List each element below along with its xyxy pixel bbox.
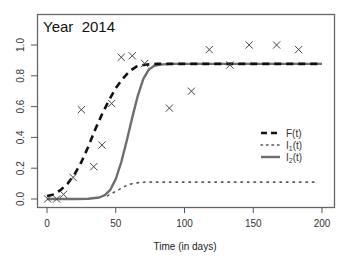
series-curves bbox=[47, 64, 322, 199]
observation-marker bbox=[166, 105, 173, 112]
y-tick-label: 0.8 bbox=[15, 68, 26, 82]
x-tick-label: 100 bbox=[176, 218, 193, 229]
x-tick-label: 150 bbox=[245, 218, 262, 229]
plot-title: Year 2014 bbox=[43, 18, 115, 35]
curve-i1t bbox=[108, 182, 317, 196]
observation-marker bbox=[90, 163, 97, 170]
y-tick-label: 0.2 bbox=[15, 161, 26, 175]
observation-marker bbox=[295, 46, 302, 53]
observation-marker bbox=[129, 52, 136, 59]
x-tick-label: 0 bbox=[44, 218, 50, 229]
x-tick-label: 200 bbox=[314, 218, 331, 229]
observation-marker bbox=[70, 174, 77, 181]
legend-label: F(t) bbox=[286, 128, 302, 139]
legend: F(t)I1(t)I2(t) bbox=[261, 128, 302, 165]
observation-marker bbox=[108, 100, 115, 107]
observation-marker bbox=[98, 142, 105, 149]
observation-marker bbox=[188, 88, 195, 95]
y-tick-label: 1.0 bbox=[15, 38, 26, 52]
observation-marker bbox=[273, 41, 280, 48]
y-tick-label: 0.0 bbox=[15, 192, 26, 206]
x-axis: 050100150200 bbox=[44, 208, 331, 230]
observation-marker bbox=[60, 191, 67, 198]
observation-marker bbox=[78, 106, 85, 113]
observation-marker bbox=[118, 54, 125, 61]
x-tick-label: 50 bbox=[110, 218, 122, 229]
legend-label: I2(t) bbox=[286, 152, 302, 165]
observation-markers bbox=[44, 41, 302, 202]
curve-i2t bbox=[47, 64, 322, 199]
curve-ft bbox=[47, 64, 322, 196]
legend-label: I1(t) bbox=[286, 140, 302, 153]
observation-marker bbox=[246, 41, 253, 48]
observation-marker bbox=[206, 46, 213, 53]
x-axis-title: Time (in days) bbox=[154, 241, 217, 252]
y-tick-label: 0.6 bbox=[15, 99, 26, 113]
y-axis: 0.00.20.40.60.81.0 bbox=[15, 38, 38, 206]
chart: 050100150200 0.00.20.40.60.81.0 Year 201… bbox=[0, 0, 346, 266]
y-tick-label: 0.4 bbox=[15, 130, 26, 144]
